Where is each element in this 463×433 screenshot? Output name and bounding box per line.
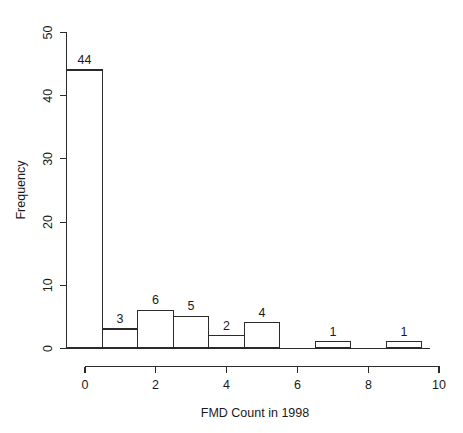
histogram-bar-9 [386, 342, 422, 348]
histogram-bar-3 [173, 316, 209, 348]
x-tick-label-4: 4 [223, 378, 230, 392]
histogram-bar-1 [102, 329, 138, 348]
bar-value-label-1: 3 [117, 312, 124, 326]
histogram-bar-7 [315, 342, 351, 348]
y-tick-label-10: 10 [41, 278, 55, 292]
x-tick-label-8: 8 [365, 378, 372, 392]
y-tick-label-30: 30 [41, 152, 55, 166]
x-tick-label-6: 6 [294, 378, 301, 392]
histogram-chart: 50 40 30 20 10 0 Frequency [0, 0, 463, 433]
x-axis-title: FMD Count in 1998 [201, 406, 309, 420]
bar-value-label-9: 1 [401, 325, 408, 339]
bar-value-label-4: 2 [223, 319, 230, 333]
x-tick-label-10: 10 [432, 378, 446, 392]
bar-value-label-0: 44 [78, 53, 92, 67]
y-axis: 50 40 30 20 10 0 Frequency [14, 26, 67, 352]
y-tick-label-0: 0 [41, 345, 55, 352]
x-tick-label-2: 2 [152, 378, 159, 392]
y-tick-label-40: 40 [41, 89, 55, 103]
plot-area: 50 40 30 20 10 0 Frequency [0, 0, 463, 433]
histogram-bar-0 [67, 70, 103, 348]
bar-value-label-7: 1 [330, 325, 337, 339]
y-axis-title: Frequency [14, 160, 28, 220]
bar-value-label-2: 6 [152, 293, 159, 307]
x-axis: 0 2 4 6 8 10 FMD Count in 1998 [82, 367, 446, 421]
histogram-bars [67, 70, 422, 348]
histogram-bar-2 [138, 310, 174, 348]
y-tick-label-20: 20 [41, 215, 55, 229]
y-tick-label-50: 50 [41, 26, 55, 40]
bar-value-label-3: 5 [188, 299, 195, 313]
x-tick-label-0: 0 [82, 378, 89, 392]
bar-value-labels: 44 3 6 5 2 4 1 1 [78, 53, 408, 339]
bar-value-label-5: 4 [259, 306, 266, 320]
histogram-bar-4 [209, 335, 245, 348]
histogram-bar-5 [244, 323, 280, 348]
